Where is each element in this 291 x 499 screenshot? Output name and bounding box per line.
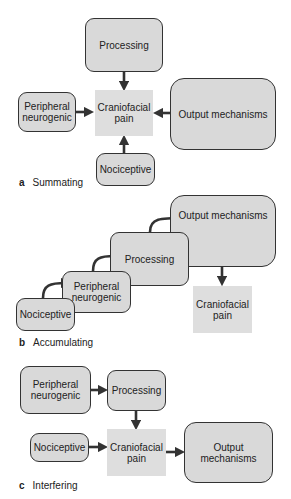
a-craniofacial-pain-node: Craniofacial pain	[95, 90, 153, 136]
c-nociceptive-node: Nociceptive	[30, 433, 89, 462]
panel-c-label: cInterfering	[19, 480, 78, 491]
c-craniofacial-pain-node: Craniofacial pain	[107, 429, 166, 476]
a-processing-node: Processing	[85, 18, 163, 72]
panel-b-label: bAccumulating	[19, 337, 93, 348]
c-peripheral-neurogenic-node: Peripheral neurogenic	[20, 366, 91, 414]
b-nociceptive-node: Nociceptive	[16, 298, 75, 331]
c-output-mechanisms-node: Output mechanisms	[184, 422, 273, 483]
a-peripheral-neurogenic-node: Peripheral neurogenic	[18, 92, 76, 132]
c-processing-node: Processing	[107, 370, 166, 411]
b-craniofacial-pain-node: Craniofacial pain	[193, 286, 252, 333]
panel-a-label: aSummating	[19, 177, 83, 188]
a-nociceptive-node: Nociceptive	[96, 153, 155, 186]
a-output-mechanisms-node: Output mechanisms	[170, 78, 276, 150]
